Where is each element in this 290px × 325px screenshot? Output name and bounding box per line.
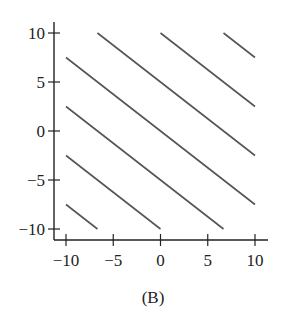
y-tick-label: 0 xyxy=(37,122,46,141)
y-tick-label: −5 xyxy=(27,171,45,190)
x-tick-label: −10 xyxy=(53,251,80,270)
x-tick-label: −5 xyxy=(104,251,122,270)
level-line xyxy=(66,58,255,205)
level-line xyxy=(161,33,256,107)
chart-lines xyxy=(66,33,255,229)
level-line xyxy=(66,156,161,230)
y-tick-label: −10 xyxy=(18,220,45,239)
chart-caption: (B) xyxy=(8,288,290,308)
x-tick-label: 5 xyxy=(204,251,213,270)
y-tick-label: 5 xyxy=(37,73,46,92)
x-tick-label: 10 xyxy=(247,251,264,270)
level-line xyxy=(66,205,97,230)
level-line xyxy=(224,33,255,58)
chart-ticks: −10−50510−10−50510 xyxy=(18,24,263,270)
level-line xyxy=(97,33,255,156)
chart-plot-area: −10−50510−10−50510 xyxy=(0,0,290,325)
y-tick-label: 10 xyxy=(28,24,45,43)
x-tick-label: 0 xyxy=(156,251,165,270)
level-line xyxy=(66,107,224,230)
